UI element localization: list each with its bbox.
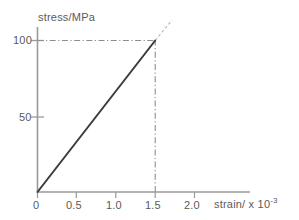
x-axis-title-text: strain/ x 10 bbox=[214, 198, 270, 210]
y-tick-label-100: 100 bbox=[13, 35, 32, 46]
x-tick-label-2-0: 2.0 bbox=[184, 200, 200, 211]
x-tick-label-0: 0 bbox=[33, 200, 39, 211]
stress-strain-chart: stress/MPa strain/ x 10-3 100 50 0 0.5 1… bbox=[0, 0, 299, 220]
y-tick-label-50: 50 bbox=[19, 112, 32, 123]
x-tick-label-1-0: 1.0 bbox=[106, 200, 122, 211]
x-tick-label-1-5: 1.5 bbox=[145, 200, 161, 211]
chart-canvas bbox=[0, 0, 299, 220]
x-tick-label-0-5: 0.5 bbox=[66, 200, 82, 211]
data-line-stress-strain bbox=[38, 41, 156, 193]
y-axis-title: stress/MPa bbox=[38, 12, 95, 23]
x-axis-title-exponent: -3 bbox=[270, 196, 278, 205]
extrapolation-line bbox=[155, 20, 172, 41]
x-axis-title: strain/ x 10-3 bbox=[214, 199, 278, 210]
